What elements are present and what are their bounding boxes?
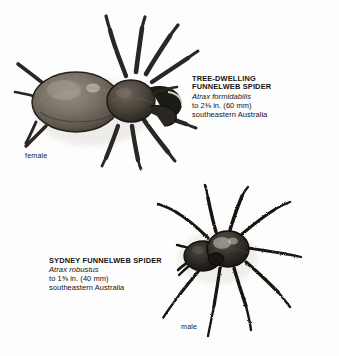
sex-label-female: female <box>25 151 47 160</box>
caption-range: southeastern Australia <box>49 283 162 292</box>
caption-scientific-name: Atrax robustus <box>49 265 162 274</box>
spider-female-tree-dwelling <box>15 16 198 169</box>
female-legs-upper <box>106 16 198 82</box>
caption-tree-dwelling-funnelweb-spider: TREE-DWELLING FUNNELWEB SPIDER Atrax for… <box>192 75 271 119</box>
caption-title-line-1: SYDNEY FUNNELWEB SPIDER <box>49 257 162 265</box>
caption-scientific-name: Atrax formidabilis <box>192 92 271 101</box>
spider-male-sydney <box>158 185 301 336</box>
illustration-plate: TREE-DWELLING FUNNELWEB SPIDER Atrax for… <box>0 0 339 356</box>
caption-title-line-2: FUNNELWEB SPIDER <box>192 83 271 91</box>
spider-illustrations <box>0 0 339 356</box>
caption-size: to 2⅜ in. (60 mm) <box>192 101 271 110</box>
male-legs-upper <box>158 185 290 238</box>
caption-sydney-funnelweb-spider: SYDNEY FUNNELWEB SPIDER Atrax robustus t… <box>49 257 162 292</box>
caption-size: to 1⅝ in. (40 mm) <box>49 274 162 283</box>
sex-label-male: male <box>181 322 197 331</box>
caption-range: southeastern Australia <box>192 110 271 119</box>
female-cephalothorax <box>107 80 155 122</box>
male-chelicerae <box>208 253 224 265</box>
